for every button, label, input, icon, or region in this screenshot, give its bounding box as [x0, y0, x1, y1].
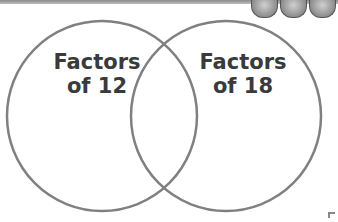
- label-line: Factors: [188, 50, 298, 74]
- label-line: of 18: [188, 74, 298, 98]
- label-line: of 12: [42, 74, 152, 98]
- label-line: Factors: [42, 50, 152, 74]
- set-label-right: Factors of 18: [188, 50, 298, 98]
- set-label-left: Factors of 12: [42, 50, 152, 98]
- corner-mark: [328, 212, 335, 218]
- venn-diagram: [0, 0, 338, 222]
